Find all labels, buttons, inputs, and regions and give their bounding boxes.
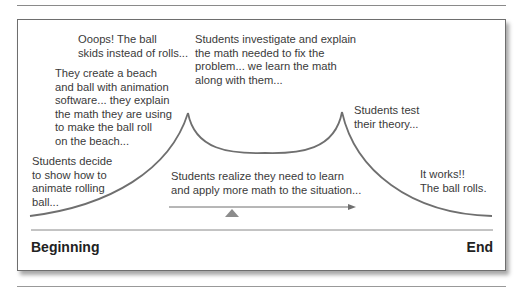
- stage-create-line: and ball with animation: [55, 81, 172, 95]
- stage-investigate-line: the math needed to fix the: [195, 47, 356, 61]
- stage-test-line: Students test: [354, 104, 419, 118]
- stage-decide-line: animate rolling: [32, 182, 112, 196]
- stage-create: They create a beach and ball with animat…: [55, 67, 172, 149]
- stage-works-line: The ball rolls.: [420, 182, 487, 196]
- stage-create-line: They create a beach: [55, 67, 172, 81]
- stage-ooops-line: Ooops! The ball: [78, 33, 188, 47]
- stage-decide: Students decide to show how to animate r…: [32, 155, 112, 209]
- stage-test-line: their theory...: [354, 118, 419, 132]
- middle-trough-curve: [188, 112, 342, 153]
- timeline-end-label: End: [467, 239, 493, 255]
- stage-investigate: Students investigate and explain the mat…: [195, 33, 356, 87]
- timeline-start-label: Beginning: [31, 239, 99, 255]
- stage-works: It works!! The ball rolls.: [420, 168, 487, 195]
- arrow-caption-line: Students realize they need to learn: [171, 170, 361, 184]
- bottom-rule: [17, 286, 506, 287]
- stage-decide-line: Students decide: [32, 155, 112, 169]
- arrow-caption-line: and apply more math to the situation...: [171, 184, 361, 198]
- arrow-head-icon: [348, 204, 356, 210]
- stage-test: Students test their theory...: [354, 104, 419, 131]
- stage-investigate-line: problem... we learn the math: [195, 60, 356, 74]
- stage-ooops-line: skids instead of rolls...: [78, 47, 188, 61]
- stage-create-line: on the beach...: [55, 135, 172, 149]
- stage-ooops: Ooops! The ball skids instead of rolls..…: [78, 33, 188, 60]
- stage-create-line: software... they explain: [55, 94, 172, 108]
- stage-decide-line: to show how to: [32, 169, 112, 183]
- stage-works-line: It works!!: [420, 168, 487, 182]
- stage-investigate-line: Students investigate and explain: [195, 33, 356, 47]
- arrow-caption: Students realize they need to learn and …: [171, 170, 361, 197]
- stage-create-line: the math they are using: [55, 108, 172, 122]
- stage-create-line: to make the ball roll: [55, 121, 172, 135]
- stage-decide-line: ball...: [32, 196, 112, 210]
- fulcrum-triangle-icon: [225, 209, 239, 217]
- stage-investigate-line: along with them...: [195, 74, 356, 88]
